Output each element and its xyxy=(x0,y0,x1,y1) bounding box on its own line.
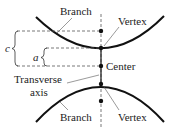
transverse-label-line1: Transverse xyxy=(14,73,62,85)
vertex-top-label: Vertex xyxy=(118,15,147,27)
c-brace xyxy=(12,31,18,66)
center-label: Center xyxy=(106,60,136,72)
vertex-bottom-dot xyxy=(99,82,103,86)
center-dot xyxy=(99,64,103,68)
transverse-label-line2: axis xyxy=(30,86,48,98)
hyperbola-diagram: Branch Vertex c a Center Transverse axis… xyxy=(0,0,173,130)
vertex-top-dot xyxy=(99,46,103,50)
branch-bottom-label: Branch xyxy=(60,111,92,123)
a-brace xyxy=(41,48,47,66)
focus-bottom-dot xyxy=(99,99,103,103)
a-label: a xyxy=(33,51,39,63)
vertex-bottom-label: Vertex xyxy=(118,111,147,123)
focus-top-dot xyxy=(99,29,103,33)
transverse-leader xyxy=(67,75,99,83)
branch-top-label: Branch xyxy=(60,5,92,17)
vertex-bottom-leader xyxy=(104,87,119,110)
branch-bottom-leader xyxy=(60,102,68,110)
c-label: c xyxy=(5,42,10,54)
vertex-top-leader xyxy=(104,27,119,46)
